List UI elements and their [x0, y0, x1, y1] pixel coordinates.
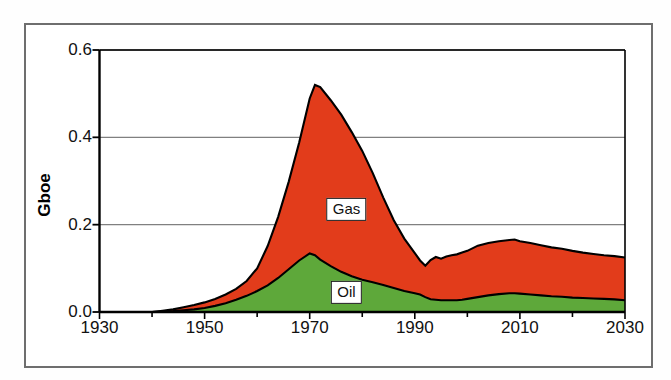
oil-series-label: Oil [331, 281, 361, 303]
gas-series-label: Gas [327, 198, 367, 220]
chart-figure: Gboe 0.00.20.40.6 1930195019701990201020… [0, 0, 671, 380]
plot-area [0, 0, 671, 380]
